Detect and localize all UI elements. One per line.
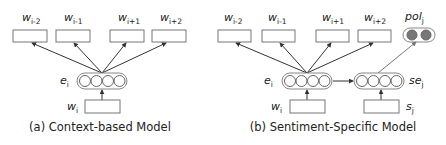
label-s-j: sj [406,100,414,115]
label-b-w-i-minus-2: wi-2 [224,11,243,26]
arrow-to-w-i-minus-1 [74,43,102,73]
sentiment-embedding-node-se-j [354,73,404,89]
caption-b: (b) Sentiment-Specific Model [250,120,416,134]
panel-a-context-model: wi-2 wi-1 wi+1 wi+2 ei wi (a) Context-ba… [13,11,186,134]
diagram-canvas: wi-2 wi-1 wi+1 wi+2 ei wi (a) Context-ba… [0,0,446,145]
label-b-w-i: wi [271,100,282,115]
context-box-b-w-i-minus-2 [218,30,251,42]
context-box-w-i-minus-2 [13,30,47,42]
arrow-to-w-i-plus-1 [102,43,126,73]
panel-b-sentiment-specific-model: wi-2 wi-1 wi+1 wi+2 polj ei [218,10,435,134]
label-w-i: wi [67,100,78,115]
label-w-i-minus-1: wi-1 [64,11,83,26]
context-box-w-i-plus-2 [152,30,186,42]
arrow-to-w-i-plus-2 [102,43,166,73]
label-w-i-plus-1: wi+1 [118,11,140,26]
input-box-w-i [85,100,120,113]
context-box-w-i-plus-1 [110,30,144,42]
input-box-s-j [364,100,399,113]
arrow-to-w-i-minus-2 [32,43,102,73]
arrow-b-to-w-i-minus-1 [280,43,307,73]
embedding-node-b-e-i [282,73,332,89]
input-box-b-w-i [290,100,325,113]
label-b-w-i-minus-1: wi-1 [268,11,287,26]
arrow-b-to-w-i-plus-1 [307,43,331,73]
embedding-node-e-i [77,73,127,89]
label-w-i-plus-2: wi+2 [160,11,182,26]
label-b-e-i: ei [264,74,273,89]
context-box-b-w-i-minus-1 [262,30,295,42]
label-pol-j: polj [404,10,424,25]
label-e-i: ei [60,74,69,89]
label-b-w-i-plus-1: wi+1 [322,11,344,26]
caption-a: (a) Context-based Model [29,120,171,134]
label-b-w-i-plus-2: wi+2 [364,11,386,26]
arrow-b-to-w-i-minus-2 [236,43,307,73]
context-box-b-w-i-plus-2 [358,30,391,42]
context-box-w-i-minus-1 [56,30,90,42]
label-w-i-minus-2: wi-2 [22,11,41,26]
arrow-se-j-to-pol-j [378,42,416,73]
polarity-node-pol-j [403,28,435,42]
context-box-b-w-i-plus-1 [316,30,349,42]
arrow-b-to-w-i-plus-2 [307,43,373,73]
label-se-j: sej [409,74,424,89]
